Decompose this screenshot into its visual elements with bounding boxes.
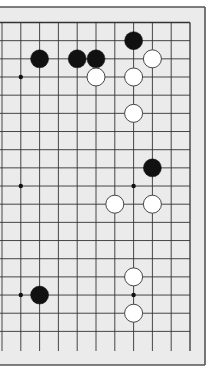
white-stone <box>106 195 124 213</box>
white-stone <box>125 304 143 322</box>
black-stone <box>68 50 86 68</box>
black-stone <box>125 32 143 50</box>
white-stone <box>87 68 105 86</box>
star-point <box>19 75 23 79</box>
star-point <box>131 293 135 297</box>
white-stone <box>143 195 161 213</box>
star-point <box>19 293 23 297</box>
black-stone <box>31 50 49 68</box>
black-stone <box>31 286 49 304</box>
go-board <box>0 0 212 371</box>
black-stone <box>87 50 105 68</box>
star-point <box>131 184 135 188</box>
star-point <box>19 184 23 188</box>
white-stone <box>143 50 161 68</box>
white-stone <box>125 104 143 122</box>
white-stone <box>125 268 143 286</box>
black-stone <box>143 159 161 177</box>
white-stone <box>125 68 143 86</box>
